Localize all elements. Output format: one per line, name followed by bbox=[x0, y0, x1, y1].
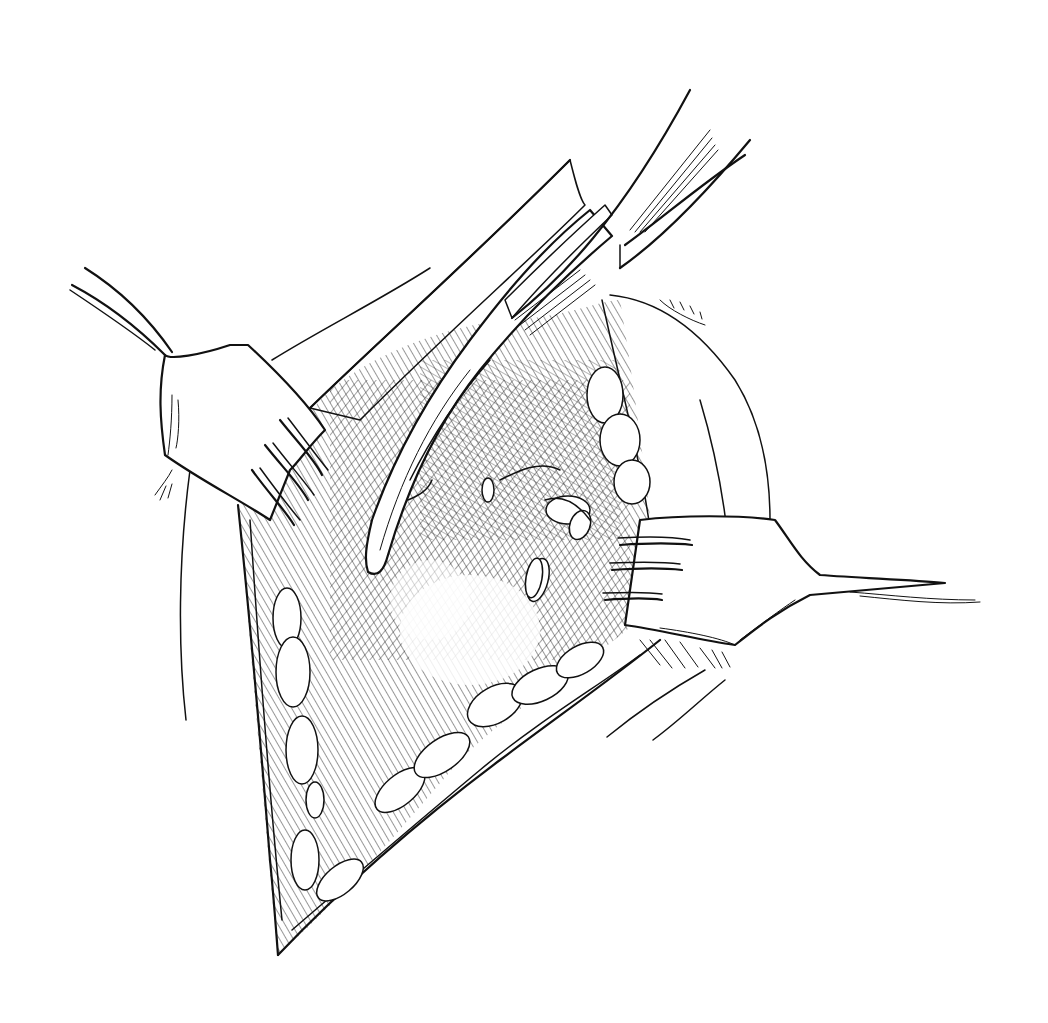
illustration-canvas: Surgical exposure with retractors and cu… bbox=[0, 0, 1048, 1023]
right-retractor bbox=[603, 516, 980, 668]
